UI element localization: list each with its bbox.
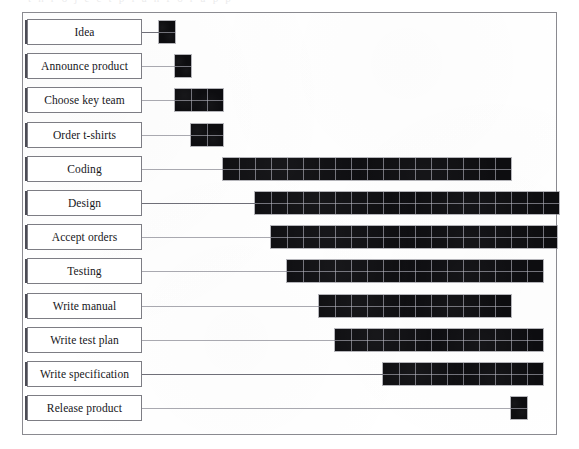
task-label-text: Release product (47, 402, 122, 414)
gantt-row: Announce product (23, 53, 556, 83)
gantt-row: Write specification (23, 361, 556, 391)
task-label-text: Choose key team (44, 94, 125, 106)
gantt-row: Idea (23, 19, 556, 49)
task-connector-line (142, 340, 335, 341)
bar-ink-texture (511, 397, 527, 419)
task-label-text: Announce product (41, 60, 128, 72)
gantt-bar[interactable] (159, 21, 175, 43)
task-connector-line (142, 237, 271, 238)
task-connector-line (142, 408, 511, 409)
gantt-rows: IdeaAnnounce productChoose key teamOrder… (23, 13, 556, 434)
gantt-bar[interactable] (287, 260, 543, 282)
task-connector-line (142, 374, 383, 375)
task-label-text: Write specification (40, 368, 129, 380)
task-label-box[interactable]: Testing (27, 258, 142, 284)
gantt-row: Accept orders (23, 224, 556, 254)
task-label-text: Coding (67, 163, 101, 175)
task-connector-line (142, 32, 159, 33)
task-label-box[interactable]: Idea (27, 19, 142, 45)
bar-ink-texture (287, 260, 543, 282)
task-label-box[interactable]: Accept orders (27, 224, 142, 250)
task-label-text: Order t-shirts (53, 129, 116, 141)
bar-ink-texture (383, 363, 543, 385)
gantt-chart-frame: IdeaAnnounce productChoose key teamOrder… (22, 12, 557, 435)
task-connector-line (142, 271, 287, 272)
task-label-text: Write test plan (50, 334, 119, 346)
task-label-box[interactable]: Write manual (27, 293, 142, 319)
gantt-row: Order t-shirts (23, 122, 556, 152)
task-connector-line (142, 203, 255, 204)
gantt-row: Design (23, 190, 556, 220)
task-connector-line (142, 66, 175, 67)
bar-ink-texture (335, 329, 543, 351)
task-label-text: Design (68, 197, 101, 209)
bar-ink-texture (319, 295, 511, 317)
gantt-row: Write test plan (23, 327, 556, 357)
gantt-bar[interactable] (223, 158, 511, 180)
bar-ink-texture (175, 89, 223, 111)
bar-ink-texture (175, 55, 191, 77)
bar-ink-texture (159, 21, 175, 43)
bar-ink-texture (255, 192, 559, 214)
task-connector-line (142, 306, 319, 307)
task-label-text: Testing (67, 265, 101, 277)
gantt-row: Write manual (23, 293, 556, 323)
task-label-text: Accept orders (52, 231, 117, 243)
gantt-bar[interactable] (335, 329, 543, 351)
gantt-bar[interactable] (271, 226, 557, 248)
task-label-box[interactable]: Announce product (27, 53, 142, 79)
bar-ink-texture (223, 158, 511, 180)
task-label-box[interactable]: Release product (27, 395, 142, 421)
task-label-box[interactable]: Order t-shirts (27, 122, 142, 148)
gantt-row: Choose key team (23, 87, 556, 117)
task-label-box[interactable]: Coding (27, 156, 142, 182)
gantt-bar[interactable] (175, 89, 223, 111)
bar-ink-texture (191, 124, 223, 146)
gantt-bar[interactable] (383, 363, 543, 385)
gantt-bar[interactable] (319, 295, 511, 317)
gantt-bar[interactable] (175, 55, 191, 77)
gantt-bar[interactable] (511, 397, 527, 419)
gantt-row: Release product (23, 395, 556, 425)
task-label-box[interactable]: Write specification (27, 361, 142, 387)
gantt-bar[interactable] (255, 192, 559, 214)
task-label-text: Idea (74, 26, 94, 38)
clipped-header-text-artifact: t n r o j e c t p l a n f o r a p p (0, 0, 579, 6)
task-connector-line (142, 135, 191, 136)
task-label-text: Write manual (53, 300, 117, 312)
gantt-row: Testing (23, 258, 556, 288)
bar-ink-texture (271, 226, 557, 248)
task-label-box[interactable]: Write test plan (27, 327, 142, 353)
task-connector-line (142, 100, 175, 101)
gantt-row: Coding (23, 156, 556, 186)
task-label-box[interactable]: Choose key team (27, 87, 142, 113)
task-connector-line (142, 169, 223, 170)
gantt-bar[interactable] (191, 124, 223, 146)
clipped-header-text: t n r o j e c t p l a n f o r a p p (28, 0, 233, 4)
task-label-box[interactable]: Design (27, 190, 142, 216)
